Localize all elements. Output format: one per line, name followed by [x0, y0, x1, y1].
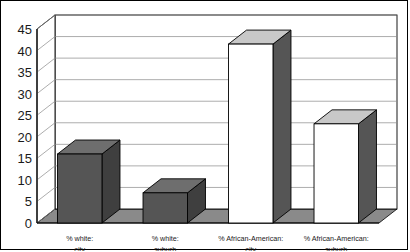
bar-front-face [58, 154, 102, 223]
bar-side-face [358, 110, 376, 223]
bar-front-face [143, 193, 187, 223]
x-axis-category-label: suburb [325, 245, 347, 251]
bar-chart: 051015202530354045% white:city% white:su… [1, 1, 409, 251]
chart-frame: 051015202530354045% white:city% white:su… [0, 0, 408, 250]
y-axis-tick-label: 10 [18, 173, 32, 188]
y-axis-tick-label: 30 [18, 87, 32, 102]
y-axis-tick-label: 0 [25, 216, 32, 231]
y-axis-tick-label: 5 [25, 194, 32, 209]
x-axis-category-label: city [245, 245, 256, 251]
y-axis-tick-label: 35 [18, 65, 32, 80]
y-axis-tick-label: 45 [18, 22, 32, 37]
bar-front-face [314, 124, 358, 223]
bar-1[interactable] [58, 140, 120, 223]
y-axis-tick-label: 20 [18, 130, 32, 145]
x-axis-category-label: suburb [154, 245, 176, 251]
x-axis-category-label: % African-American: [304, 234, 369, 243]
y-axis-tick-label: 15 [18, 151, 32, 166]
bar-2[interactable] [143, 179, 205, 223]
x-axis-category-label: % white: [66, 234, 93, 243]
bar-3[interactable] [229, 30, 291, 223]
x-axis-category-label: % African-American: [218, 234, 283, 243]
y-axis-tick-label: 25 [18, 108, 32, 123]
x-axis-category-label: % white: [152, 234, 179, 243]
bar-side-face [273, 30, 291, 223]
bar-4[interactable] [314, 110, 376, 223]
x-axis-category-label: city [74, 245, 85, 251]
y-axis-tick-label: 40 [18, 44, 32, 59]
chart-left-wall [37, 15, 55, 223]
bar-front-face [229, 44, 273, 223]
